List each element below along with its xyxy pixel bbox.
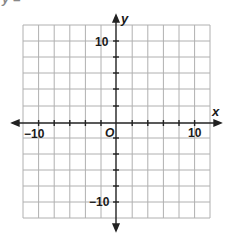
y-axis-up-arrow — [113, 15, 119, 22]
y-tick-label-neg10: −10 — [89, 196, 109, 208]
x-axis-left-arrow — [12, 120, 19, 126]
x-tick-label-neg10: −10 — [24, 128, 44, 140]
origin-label: O — [105, 127, 114, 139]
y-tick-label-10: 10 — [95, 36, 108, 48]
axes — [12, 15, 221, 231]
y-axis-down-arrow — [113, 224, 119, 231]
x-tick-label-10: 10 — [188, 127, 201, 139]
grid-svg — [0, 0, 228, 233]
coordinate-plane: y = — [0, 0, 228, 233]
x-axis-right-arrow — [214, 120, 221, 126]
x-axis-label: x — [212, 105, 219, 118]
y-axis-label: y — [121, 12, 128, 25]
